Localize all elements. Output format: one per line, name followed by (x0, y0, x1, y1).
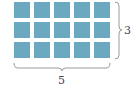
bottom-brace-icon (14, 63, 110, 71)
columns-count-label: 5 (58, 75, 65, 86)
right-brace-icon (115, 2, 122, 59)
braces (0, 0, 140, 91)
rows-count-label: 3 (124, 25, 131, 36)
